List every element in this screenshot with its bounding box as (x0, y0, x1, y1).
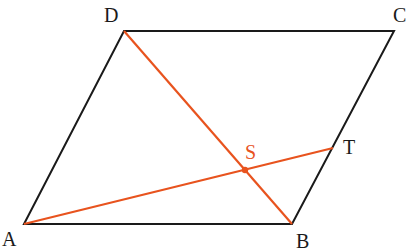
label-s: S (245, 141, 256, 163)
label-t: T (343, 136, 355, 158)
parallelogram-diagram: A B C D T S (0, 0, 411, 252)
segment-db (124, 31, 292, 224)
label-c: C (393, 4, 406, 26)
point-s-marker (242, 167, 248, 173)
label-d: D (104, 4, 118, 26)
label-a: A (2, 228, 17, 250)
segment-at (24, 148, 333, 224)
label-b: B (296, 230, 309, 252)
